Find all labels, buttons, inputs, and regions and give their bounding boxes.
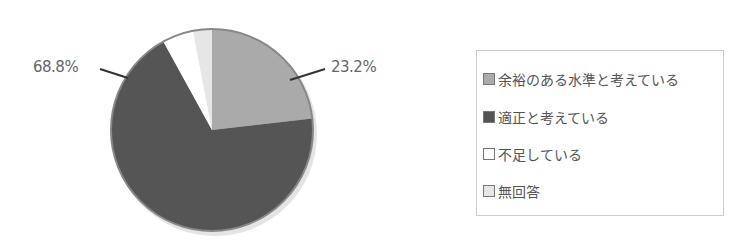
legend-swatch bbox=[483, 73, 495, 85]
label-68-8: 68.8% bbox=[33, 58, 78, 76]
label-23-2: 23.2% bbox=[331, 58, 376, 76]
pie-slice bbox=[212, 29, 312, 130]
leader-line bbox=[100, 69, 128, 78]
legend-label: 適正と考えている bbox=[498, 107, 609, 127]
legend-item-appropriate: 適正と考えている bbox=[483, 107, 609, 127]
legend-label: 不足している bbox=[498, 144, 582, 164]
legend-item-no-answer: 無回答 bbox=[483, 181, 540, 201]
legend-item-surplus: 余裕のある水準と考えている bbox=[483, 69, 679, 89]
legend-item-insufficient: 不足している bbox=[483, 144, 582, 164]
legend-swatch bbox=[483, 185, 495, 197]
legend-label: 余裕のある水準と考えている bbox=[498, 69, 679, 89]
legend-label: 無回答 bbox=[498, 181, 540, 201]
legend-swatch bbox=[483, 111, 495, 123]
legend-swatch bbox=[483, 148, 495, 160]
legend: 余裕のある水準と考えている 適正と考えている 不足している 無回答 bbox=[476, 50, 724, 216]
